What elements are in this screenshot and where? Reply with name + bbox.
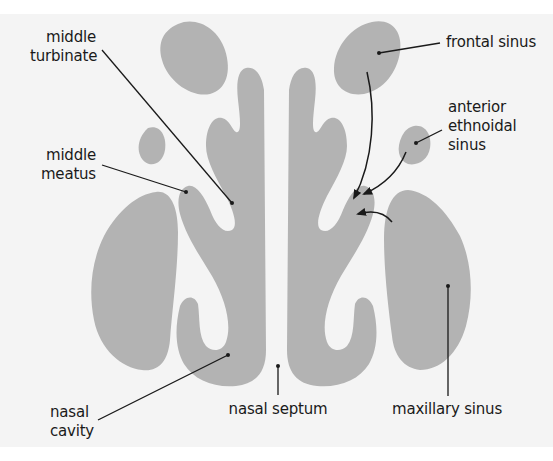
nasal-sinus-diagram: middle turbinate middle meatus frontal s… [0, 0, 553, 461]
label-middle-meatus: middle meatus [30, 146, 96, 184]
label-middle-turbinate: middle turbinate [30, 28, 96, 66]
left-nasal-wall-turbinates [177, 68, 266, 387]
label-anterior-ethmoidal-sinus: anterior ethnoidal sinus [448, 98, 517, 155]
right-nasal-wall-turbinates [287, 68, 376, 387]
left-maxillary-sinus [91, 192, 178, 370]
structures [91, 21, 471, 386]
anatomy-illustration [0, 0, 553, 461]
ethmoid-drainage-arrow [364, 152, 406, 194]
nasal-cavity-leader [98, 355, 228, 420]
label-maxillary-sinus: maxillary sinus [392, 400, 502, 419]
label-frontal-sinus: frontal sinus [446, 33, 536, 52]
label-nasal-cavity: nasal cavity [50, 403, 94, 441]
middle-meatus-leader [102, 165, 186, 192]
label-nasal-septum: nasal septum [218, 400, 338, 419]
right-maxillary-sinus [384, 190, 471, 370]
right-frontal-sinus [334, 21, 401, 94]
left-frontal-sinus [160, 22, 227, 95]
left-ethmoid-cell [139, 127, 166, 164]
